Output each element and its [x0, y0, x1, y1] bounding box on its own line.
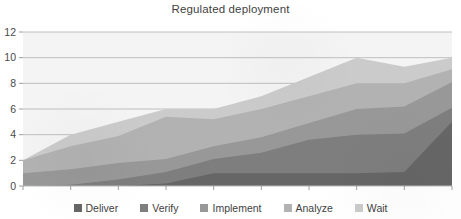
- legend-item-deliver[interactable]: Deliver: [74, 202, 119, 214]
- x-tick-label: 8: [354, 191, 360, 192]
- x-tick-label: 5: [211, 191, 217, 192]
- chart-legend: DeliverVerifyImplementAnalyzeWait: [0, 200, 461, 216]
- legend-item-wait[interactable]: Wait: [355, 202, 388, 214]
- x-tick-label: 1: [20, 191, 26, 192]
- plot-area: 024681012 12345678910: [0, 22, 461, 192]
- x-tick-label: 3: [115, 191, 121, 192]
- legend-label: Implement: [212, 202, 261, 214]
- x-tick-label: 7: [306, 191, 312, 192]
- y-tick-label: 6: [10, 103, 16, 115]
- y-tick-label: 12: [4, 26, 16, 38]
- x-tick-label: 9: [401, 191, 407, 192]
- plot-svg: 024681012 12345678910: [0, 22, 461, 192]
- legend-item-analyze[interactable]: Analyze: [284, 202, 333, 214]
- x-axis-tick-labels: 12345678910: [20, 191, 458, 192]
- chart-title: Regulated deployment: [0, 3, 461, 15]
- x-tick-label: 6: [258, 191, 264, 192]
- y-tick-label: 4: [10, 128, 16, 140]
- x-tick-label: 4: [163, 191, 169, 192]
- legend-label: Verify: [152, 202, 178, 214]
- y-axis-tick-labels: 024681012: [4, 26, 16, 192]
- legend-swatch-analyze-icon: [284, 204, 292, 212]
- legend-label: Analyze: [296, 202, 333, 214]
- legend-swatch-implement-icon: [200, 204, 208, 212]
- legend-label: Wait: [367, 202, 388, 214]
- legend-swatch-deliver-icon: [74, 204, 82, 212]
- legend-swatch-verify-icon: [140, 204, 148, 212]
- y-tick-label: 2: [10, 154, 16, 166]
- y-tick-label: 10: [4, 51, 16, 63]
- y-tick-label: 8: [10, 77, 16, 89]
- legend-item-verify[interactable]: Verify: [140, 202, 178, 214]
- x-tick-label: 2: [68, 191, 74, 192]
- legend-item-implement[interactable]: Implement: [200, 202, 261, 214]
- x-tick-label: 10: [446, 191, 458, 192]
- legend-swatch-wait-icon: [355, 204, 363, 212]
- area-chart: Regulated deployment 024681012 123456789…: [0, 0, 461, 219]
- y-tick-label: 0: [10, 180, 16, 192]
- legend-label: Deliver: [86, 202, 119, 214]
